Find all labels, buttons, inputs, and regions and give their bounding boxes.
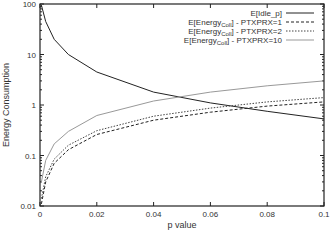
y-tick-label: 10 [27, 51, 36, 60]
y-tick-label: 1 [32, 101, 37, 110]
y-axis-label: Energy Consumption [1, 63, 11, 147]
series-line [41, 102, 324, 204]
legend-label: E[EnergyColl] - PTXPRX=10 [184, 36, 283, 46]
legend: E[Idle_p]E[EnergyColl] - PTXPRX=1E[Energ… [184, 9, 314, 46]
x-tick-label: 0.1 [318, 210, 330, 219]
x-tick-label: 0.02 [89, 210, 105, 219]
x-axis-label: p value [167, 220, 196, 230]
y-tick-label: 0.01 [20, 202, 36, 211]
series-line [41, 81, 324, 182]
x-tick-label: 0 [38, 210, 43, 219]
x-tick-label: 0.04 [146, 210, 162, 219]
legend-label: E[Idle_p] [250, 9, 282, 18]
x-tick-label: 0.08 [259, 210, 275, 219]
y-tick-label: 0.1 [25, 152, 37, 161]
energy-chart: 00.020.040.060.080.10.010.1110100 E[Idle… [0, 0, 331, 232]
axis-ticks: 00.020.040.060.080.10.010.1110100 [20, 0, 330, 219]
y-tick-label: 100 [23, 0, 37, 9]
x-tick-label: 0.06 [203, 210, 219, 219]
